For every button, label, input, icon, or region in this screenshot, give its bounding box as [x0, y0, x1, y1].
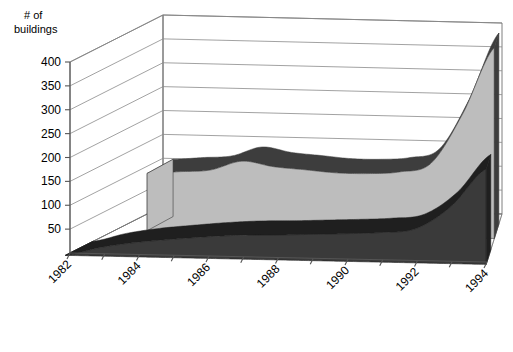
chart-container: 50100150200250300350400 1982198419861988… — [0, 0, 513, 352]
y-axis-tick-labels: 50100150200250300350400 — [41, 55, 61, 236]
x-tick-label: 1992 — [393, 264, 422, 293]
y-axis-title-line1: # of — [24, 9, 43, 21]
y-tick-label: 300 — [41, 103, 61, 117]
y-tick-label: 250 — [41, 127, 61, 141]
y-tick-label: 150 — [41, 174, 61, 188]
y-tick-label: 350 — [41, 79, 61, 93]
y-tick-label: 400 — [41, 55, 61, 69]
y-axis-title-line2: buildings — [14, 23, 58, 35]
x-tick-label: 1990 — [323, 263, 352, 292]
chart-series-group — [65, 33, 499, 264]
x-tick-label: 1986 — [184, 260, 213, 289]
area-chart-3d: 50100150200250300350400 1982198419861988… — [0, 0, 513, 352]
x-tick-label: 1988 — [254, 261, 283, 290]
x-tick-label: 1994 — [462, 266, 491, 295]
y-tick-label: 50 — [48, 222, 62, 236]
x-tick-label: 1984 — [115, 258, 144, 287]
y-tick-label: 200 — [41, 151, 61, 165]
x-tick-label: 1982 — [45, 257, 74, 286]
y-tick-label: 100 — [41, 198, 61, 212]
